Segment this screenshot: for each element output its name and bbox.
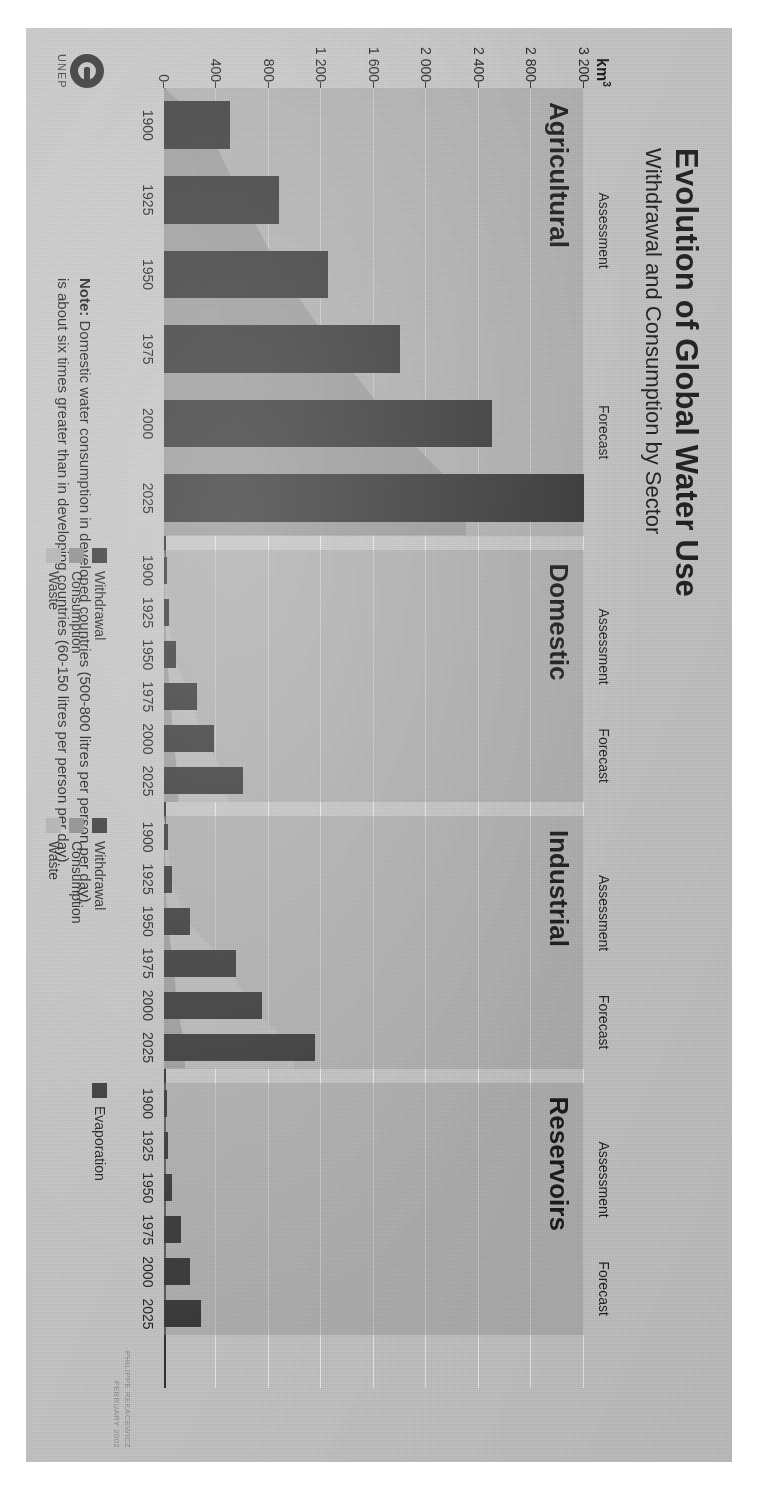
legend-item: Evaporation [92, 1083, 108, 1181]
bar [164, 1216, 181, 1243]
sector-panel-domestic: DomesticAssessmentForecast19001925195019… [164, 550, 584, 803]
bar [164, 599, 169, 626]
sector-name-label: Industrial [543, 830, 574, 947]
bar-group: 190019251950197520002025 [164, 1083, 584, 1336]
y-axis-tick-label: 1 200 [314, 30, 330, 82]
bar-group: 190019251950197520002025 [164, 550, 584, 803]
x-axis-tick-label: 1950 [140, 259, 156, 290]
y-axis-tick-label: 0 [156, 30, 172, 82]
credit-author: PHILIPPE REKACEWICZ [121, 1351, 132, 1448]
y-axis-tick-label: 400 [209, 30, 225, 82]
bar [164, 1258, 190, 1285]
legend-label: Waste [46, 841, 62, 880]
legend-item: Consumption [69, 548, 85, 654]
legend-swatch [70, 818, 85, 833]
phase-label-forecast: Forecast [596, 995, 612, 1049]
bar-group: 190019251950197520002025 [164, 88, 584, 536]
x-axis-tick-label: 1925 [140, 1130, 156, 1161]
legend-domestic: WithdrawalConsumptionWaste [39, 548, 108, 654]
unep-logo: UNEP [56, 54, 104, 118]
legend-label: Withdrawal [92, 571, 108, 640]
phase-label-assessment: Assessment [596, 608, 612, 684]
bar [164, 641, 176, 668]
phase-label-assessment: Assessment [596, 1141, 612, 1217]
bar [164, 1300, 201, 1327]
x-axis-tick-label: 1975 [140, 333, 156, 364]
x-axis-tick-label: 2025 [140, 1298, 156, 1329]
x-axis-tick-label: 1900 [140, 555, 156, 586]
unep-logo-text: UNEP [56, 54, 68, 118]
axis-unit-exponent: 3 [601, 81, 612, 87]
bar [164, 251, 328, 299]
x-axis-tick-label: 1925 [140, 184, 156, 215]
legend-industrial: WithdrawalConsumptionWaste [39, 818, 108, 924]
note-label: Note: [77, 278, 94, 316]
y-axis-tick-label: 3 200 [576, 30, 592, 82]
legend-swatch [70, 548, 85, 563]
x-axis-tick-label: 1925 [140, 864, 156, 895]
phase-label-forecast: Forecast [596, 728, 612, 782]
x-axis-tick-label: 2000 [140, 990, 156, 1021]
bar [164, 725, 214, 752]
sector-name-label: Reservoirs [543, 1097, 574, 1231]
sector-name-label: Agricultural [543, 102, 574, 248]
bar [164, 557, 167, 584]
bar [164, 767, 243, 794]
legend-item: Withdrawal [92, 818, 108, 924]
y-axis-tick-label: 2 000 [419, 30, 435, 82]
legend-swatch [93, 548, 108, 563]
credit-date: FEBRUARY 2002 [110, 1351, 121, 1448]
bar [164, 1132, 168, 1159]
phase-label-assessment: Assessment [596, 192, 612, 268]
sector-panel-agricultural: AgriculturalAssessmentForecast1900192519… [164, 88, 584, 536]
legend-swatch [47, 818, 62, 833]
x-axis-tick-label: 2025 [140, 1032, 156, 1063]
sector-name-label: Domestic [543, 564, 574, 681]
x-axis-tick-label: 2000 [140, 1256, 156, 1287]
x-axis-tick-label: 2025 [140, 765, 156, 796]
x-axis-tick-label: 1975 [140, 948, 156, 979]
bar [164, 1174, 172, 1201]
bar [164, 176, 280, 224]
x-axis-tick-label: 1900 [140, 1088, 156, 1119]
x-axis-tick-label: 2000 [140, 408, 156, 439]
phase-label-forecast: Forecast [596, 1261, 612, 1315]
bar [164, 908, 190, 935]
bar [164, 101, 230, 149]
credit-block: PHILIPPE REKACEWICZ FEBRUARY 2002 [110, 1351, 132, 1448]
bar [164, 474, 584, 522]
page-subtitle: Withdrawal and Consumption by Sector [640, 148, 666, 534]
legend-swatch [93, 1083, 108, 1098]
x-axis-tick-label: 1950 [140, 1172, 156, 1203]
axis-unit-label: km3 [593, 58, 612, 87]
legend-label: Waste [46, 571, 62, 610]
x-axis-tick-label: 1925 [140, 597, 156, 628]
bar [164, 824, 168, 851]
legend-label: Evaporation [92, 1106, 108, 1181]
scan-page: Evolution of Global Water Use Withdrawal… [0, 0, 760, 1487]
bar [164, 683, 197, 710]
legend-label: Consumption [69, 571, 85, 654]
bar [164, 1034, 315, 1061]
chart-plot-area: 04008001 2001 6002 0002 4002 8003 200Agr… [164, 88, 584, 1388]
bar [164, 992, 262, 1019]
x-axis-tick-label: 2025 [140, 483, 156, 514]
x-axis-tick-label: 1950 [140, 906, 156, 937]
x-axis-tick-label: 1950 [140, 639, 156, 670]
x-axis-tick-label: 1900 [140, 821, 156, 852]
legend-swatch [93, 818, 108, 833]
x-axis-tick-label: 1900 [140, 110, 156, 141]
sector-panel-industrial: IndustrialAssessmentForecast190019251950… [164, 816, 584, 1069]
sector-panel-reservoirs: ReservoirsAssessmentForecast190019251950… [164, 1083, 584, 1336]
phase-label-forecast: Forecast [596, 405, 612, 459]
x-axis-tick-label: 1975 [140, 681, 156, 712]
page-title: Evolution of Global Water Use [668, 148, 704, 597]
legend-item: Withdrawal [92, 548, 108, 654]
unep-globe-icon [70, 54, 104, 88]
bar [164, 325, 400, 373]
legend-label: Withdrawal [92, 841, 108, 910]
rotated-poster: Evolution of Global Water Use Withdrawal… [26, 28, 732, 1462]
legend-item: Consumption [69, 818, 85, 924]
legend-label: Consumption [69, 841, 85, 924]
poster-content: Evolution of Global Water Use Withdrawal… [26, 28, 732, 1462]
